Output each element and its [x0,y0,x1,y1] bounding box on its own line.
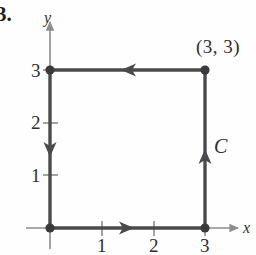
direction-arrowheads [44,64,212,235]
vertex-dot-3-3 [200,65,209,74]
vertex-dot-0-3 [45,65,54,74]
curve-label-c: C [214,136,227,156]
vertex-dot-3-0 [200,223,209,232]
figure-container: 3. y x C (3, 3) 3 2 1 1 2 3 [0,0,256,255]
y-tick-label-1: 1 [31,166,41,185]
y-tick-label-3: 3 [31,61,41,80]
x-tick-label-3: 3 [200,236,210,255]
vertex-dot-origin [45,223,54,232]
tick-marks [43,70,205,236]
x-tick-label-2: 2 [149,236,159,255]
problem-number: 3. [0,4,12,25]
y-tick-label-2: 2 [31,113,41,132]
contour-path-c [50,70,205,228]
x-axis-label: x [243,220,250,236]
vertex-dots [45,65,209,232]
vertex-coordinate-label: (3, 3) [196,37,240,56]
y-axis-label: y [44,10,51,26]
x-tick-label-1: 1 [97,236,107,255]
